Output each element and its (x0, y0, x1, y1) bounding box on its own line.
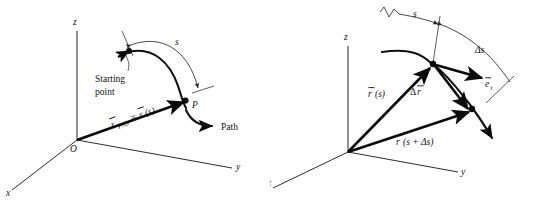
r-of-s-label-group: r (s) (368, 88, 385, 100)
delta-r-label-group: Δ r (410, 86, 424, 97)
curve-before-s (382, 51, 432, 64)
position-vector-subscript: P/O (116, 119, 130, 131)
r-of-s-plus-label-group: r (s + Δs) (396, 136, 433, 148)
origin-label: O (70, 144, 77, 154)
point-p-marker (182, 97, 188, 103)
position-vector-label-group: r P/O = r (s) (109, 104, 157, 133)
y-axis-label: y (235, 162, 241, 172)
unit-tangent-subscript: t (491, 84, 494, 92)
starting-point-label-line1: Starting (95, 74, 125, 84)
delta-r-delta: Δ (410, 87, 416, 97)
z-axis-label: z (72, 17, 77, 27)
x-axis-label: x (5, 188, 11, 198)
r-of-s-plus-argument: (s + Δs) (403, 137, 433, 148)
right-diagram-svg: z y x s Δs e t Δ r r (s) (270, 0, 541, 200)
curve-after-delta-s (473, 109, 492, 138)
z-axis-label: z (343, 32, 348, 42)
starting-point-label-line2: point (95, 87, 115, 97)
x-axis-label: x (270, 178, 272, 188)
delta-r-r: r (417, 87, 421, 97)
break-zigzag (380, 7, 399, 17)
left-diagram-svg: z y x O Starting point s P Path r P/O = … (0, 0, 270, 200)
unit-tangent-label-group: e t (485, 78, 494, 92)
r-of-s-plus-r: r (396, 137, 400, 147)
diagram-panel-left: z y x O Starting point s P Path r P/O = … (0, 0, 270, 200)
position-vector-argument: (s) (143, 105, 156, 119)
s-measure-arc (131, 41, 198, 88)
r-of-s-r: r (368, 89, 372, 99)
right-path-curve (382, 51, 492, 138)
arc-length-scale (380, 7, 514, 103)
x-axis-line (12, 140, 77, 190)
point-p-label: P (191, 100, 198, 110)
s-arc-segment (399, 14, 438, 24)
s-end-tick (192, 86, 214, 93)
arc-length-label: s (175, 37, 179, 47)
starting-point-leader (126, 56, 129, 71)
x-axis-line (273, 152, 348, 188)
right-axes (273, 46, 458, 188)
point-at-s-marker (430, 61, 436, 67)
position-vector-arrow (77, 102, 184, 140)
unit-tangent-e: e (485, 79, 489, 89)
path-label: Path (221, 122, 238, 132)
y-axis-line (348, 152, 458, 172)
r-of-s-argument: (s) (375, 89, 385, 100)
space-curve-upper (129, 51, 186, 108)
arc-length-label: s (413, 9, 417, 19)
starting-point-marker (126, 48, 132, 54)
diagram-panel-right: z y x s Δs e t Δ r r (s) (270, 0, 541, 200)
point-at-s-plus-delta-s-marker (469, 106, 475, 112)
y-axis-label: y (460, 167, 466, 177)
space-curve-lower-to-path-label (186, 110, 212, 126)
figure-root: z y x O Starting point s P Path r P/O = … (0, 0, 541, 200)
y-axis-line (77, 140, 232, 168)
arc-length-measure (122, 31, 214, 93)
delta-s-label: Δs (474, 45, 485, 55)
